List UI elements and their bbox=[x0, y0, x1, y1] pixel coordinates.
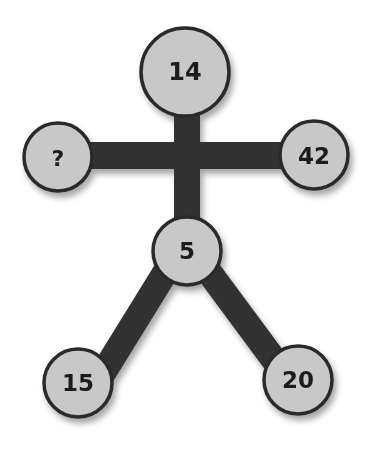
right-foot-value: 20 bbox=[282, 367, 314, 393]
left-leg bbox=[100, 268, 168, 378]
stick-figure-puzzle: 14 ? 42 5 15 20 bbox=[0, 0, 371, 450]
head-node: 14 bbox=[141, 28, 229, 116]
left-foot-value: 15 bbox=[62, 370, 94, 396]
left-hand-node: ? bbox=[24, 123, 92, 191]
body-value: 5 bbox=[179, 238, 195, 264]
right-hand-value: 42 bbox=[298, 143, 330, 169]
right-hand-node: 42 bbox=[280, 121, 348, 189]
arms-bar bbox=[90, 142, 290, 169]
head-value: 14 bbox=[168, 58, 201, 86]
body-node: 5 bbox=[153, 217, 221, 285]
left-hand-value: ? bbox=[52, 146, 65, 171]
right-foot-node: 20 bbox=[264, 346, 332, 414]
left-foot-node: 15 bbox=[44, 349, 112, 417]
